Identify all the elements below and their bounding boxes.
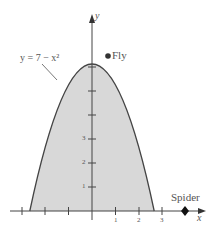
equation-label: y = 7 − x² <box>20 52 59 63</box>
y-tick-3: 3 <box>82 134 86 142</box>
parabola-diagram: y = 7 − x² Fly Spider x y 1 2 3 1 2 3 <box>0 0 214 230</box>
y-tick-1: 1 <box>82 182 86 190</box>
spider-icon <box>181 206 189 216</box>
spider-label: Spider <box>171 191 200 203</box>
fly-dot <box>105 53 111 59</box>
x-axis-label: x <box>197 212 201 223</box>
y-axis-label: y <box>95 10 99 21</box>
y-tick-2: 2 <box>82 158 86 166</box>
fly-label: Fly <box>112 49 127 61</box>
x-tick-2: 2 <box>137 216 141 224</box>
x-tick-1: 1 <box>114 216 118 224</box>
x-tick-3: 3 <box>160 216 164 224</box>
equation-pointer <box>42 64 57 80</box>
